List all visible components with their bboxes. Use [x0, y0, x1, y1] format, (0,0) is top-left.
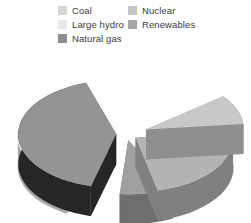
chart-legend: CoalLarge hydroNatural gas NuclearRenewa…	[0, 4, 251, 46]
pie-slice-nuclear[interactable]	[146, 96, 243, 159]
legend-label-nuclear: Nuclear	[142, 4, 175, 17]
pie-chart-figure: CoalLarge hydroNatural gas NuclearRenewa…	[0, 0, 251, 223]
legend-label-natural-gas: Natural gas	[72, 32, 122, 45]
legend-swatch-renewables	[128, 20, 137, 29]
legend-label-large-hydro: Large hydro	[72, 18, 124, 31]
legend-swatch-natural-gas	[58, 34, 67, 43]
legend-item-large-hydro[interactable]: Large hydro	[58, 18, 124, 31]
legend-item-renewables[interactable]: Renewables	[128, 18, 195, 31]
pie-slice-group	[18, 83, 244, 223]
legend-item-natural-gas[interactable]: Natural gas	[58, 32, 124, 45]
pie-slice-natural-gas[interactable]	[18, 83, 116, 217]
pie-slice-top-nuclear[interactable]	[146, 96, 243, 129]
legend-label-coal: Coal	[72, 4, 92, 17]
legend-column-right: NuclearRenewables	[128, 4, 195, 32]
legend-item-nuclear[interactable]: Nuclear	[128, 4, 195, 17]
legend-swatch-large-hydro	[58, 20, 67, 29]
legend-swatch-coal	[58, 6, 67, 15]
pie-slice-wall-end-nuclear[interactable]	[146, 124, 243, 160]
pie-plot-area	[0, 46, 251, 223]
legend-label-renewables: Renewables	[142, 18, 195, 31]
pie-svg	[0, 46, 251, 223]
legend-column-left: CoalLarge hydroNatural gas	[58, 4, 124, 46]
legend-swatch-nuclear	[128, 6, 137, 15]
legend-item-coal[interactable]: Coal	[58, 4, 124, 17]
